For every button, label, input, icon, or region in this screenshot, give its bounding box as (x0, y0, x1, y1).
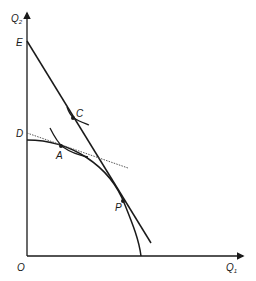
point-C (71, 116, 75, 120)
ppf-diagram: Q2 Q1 O E D C A P (0, 0, 256, 281)
label-C: C (76, 108, 84, 119)
x-axis-label: Q1 (226, 262, 237, 274)
point-A (59, 144, 63, 148)
domestic-price-line-DA (27, 133, 128, 168)
label-P: P (115, 202, 122, 213)
label-E: E (16, 37, 23, 48)
origin-label: O (17, 262, 25, 273)
label-A: A (55, 150, 63, 161)
y-axis-label: Q2 (11, 13, 23, 25)
label-D: D (16, 128, 23, 139)
